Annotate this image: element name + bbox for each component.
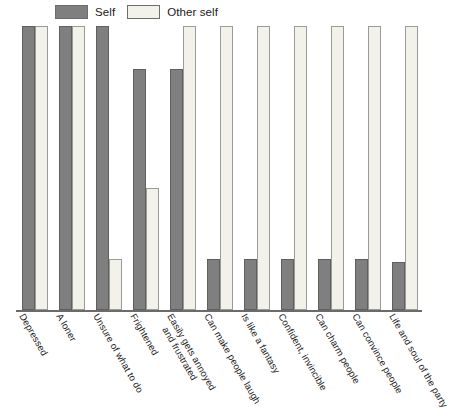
bar-other-self-easily-gets-annoyed-and-frustrated [183,26,196,310]
bar-self-unsure-of-what-to-do [96,26,109,310]
x-tick-label-a-loner: A loner [54,312,78,343]
legend-swatch-other-self-icon [127,5,160,19]
bar-self-frightened [133,69,146,310]
legend-label-other-self: Other self [167,6,218,18]
x-tick-label-is-like-a-fantasy: Is like a fantasy [239,312,282,375]
bar-other-self-depressed [35,26,48,310]
bar-other-self-is-like-a-fantasy [257,26,270,310]
bar-other-self-can-convince-people [368,26,381,310]
legend-swatch-self-icon [55,5,88,19]
bar-self-can-charm-people [318,259,331,310]
legend-label-self: Self [95,6,115,18]
bar-self-life-and-soul-of-the-party [392,262,405,310]
bar-self-can-make-people-laugh [207,259,220,310]
bar-self-confident-invincible [281,259,294,310]
legend-item-self: Self [55,5,115,19]
bar-other-self-can-make-people-laugh [220,26,233,310]
x-axis-tick-labels: DepressedA lonerUnsure of what to doFrig… [0,312,425,417]
bar-self-easily-gets-annoyed-and-frustrated [170,69,183,310]
bar-self-depressed [22,26,35,310]
bar-other-self-can-charm-people [331,26,344,310]
bar-other-self-unsure-of-what-to-do [109,259,122,310]
bar-other-self-a-loner [72,26,85,310]
legend-item-other-self: Other self [127,5,218,19]
bar-self-is-like-a-fantasy [244,259,257,310]
x-tick-label-frightened: Frightened [128,312,160,357]
bar-self-a-loner [59,26,72,310]
x-tick-label-depressed: Depressed [17,312,50,358]
bar-other-self-life-and-soul-of-the-party [405,26,418,310]
bar-other-self-frightened [146,188,159,310]
chart-legend: Self Other self [55,2,218,22]
bar-other-self-confident-invincible [294,26,307,310]
bar-self-can-convince-people [355,259,368,310]
plot-area [16,26,422,310]
